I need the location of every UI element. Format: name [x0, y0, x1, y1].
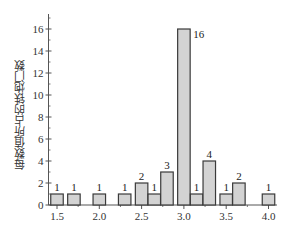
bar-value-label: 16 [193, 28, 205, 40]
y-tick-label: 14 [33, 45, 45, 57]
bar [51, 194, 64, 205]
y-tick-label: 16 [33, 23, 45, 35]
bar [135, 183, 148, 205]
y-tick-label: 6 [38, 133, 44, 145]
bar-value-label: 3 [164, 159, 170, 171]
bar [148, 194, 161, 205]
bar-value-label: 1 [266, 181, 272, 193]
bar-value-label: 1 [194, 181, 200, 193]
y-tick-label: 12 [33, 67, 44, 79]
bar [262, 194, 275, 205]
bar [161, 172, 174, 205]
x-tick-label: 3.5 [219, 210, 233, 222]
bar [68, 194, 81, 205]
y-axis-label: 每数值所占的铁炮门数 [14, 60, 30, 170]
bar [220, 194, 233, 205]
bar [233, 183, 246, 205]
bar [118, 194, 130, 205]
x-tick-label: 1.5 [50, 210, 64, 222]
x-tick-label: 2.0 [92, 210, 106, 222]
x-axis: 1.52.02.53.03.54.0 [49, 205, 278, 222]
x-tick-label: 3.0 [177, 210, 191, 222]
y-tick-label: 0 [38, 199, 44, 211]
bar-value-label: 1 [71, 181, 77, 193]
bar [190, 194, 203, 205]
y-tick-label: 10 [33, 89, 45, 101]
x-tick-label: 4.0 [262, 210, 276, 222]
bar [93, 194, 106, 205]
bar-value-label: 1 [152, 181, 158, 193]
y-axis: 0246810121416 [33, 14, 52, 211]
bar [178, 29, 191, 205]
y-tick-label: 8 [38, 111, 44, 123]
bar [203, 161, 216, 205]
bar-value-label: 1 [54, 181, 60, 193]
bar-value-label: 1 [122, 181, 128, 193]
x-tick-label: 2.5 [135, 210, 149, 222]
histogram-chart: 0246810121416 1.52.02.53.03.54.0 1111213… [0, 0, 293, 233]
y-tick-label: 4 [38, 155, 44, 167]
bar-value-label: 4 [207, 148, 213, 160]
bar-value-label: 1 [97, 181, 103, 193]
bar-value-label: 2 [139, 170, 145, 182]
y-tick-label: 2 [38, 177, 44, 189]
bar-value-label: 2 [236, 170, 242, 182]
bar-value-label: 1 [223, 181, 229, 193]
bar-labels: 11112131614121 [54, 28, 271, 193]
